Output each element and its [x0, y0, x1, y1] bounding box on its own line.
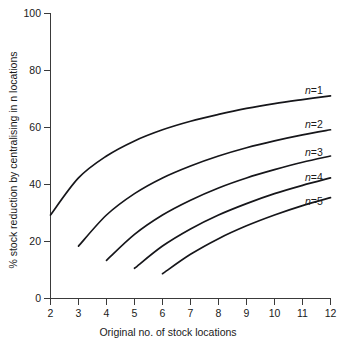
- chart-figure: 100 80 60 40 20 0 2 3 4 5 6: [0, 0, 339, 359]
- series-curves: [51, 96, 331, 274]
- y-tick-label-100: 100: [23, 7, 41, 19]
- x-tick-label-6: 6: [160, 307, 166, 319]
- x-tick-label-11: 11: [297, 307, 308, 319]
- x-tick-label-12: 12: [325, 307, 337, 319]
- curve-labels: n=1 n=2 n=3 n=4 n=5: [305, 84, 323, 207]
- x-tick-label-3: 3: [76, 307, 82, 319]
- curve-label-n-4: n=4: [305, 171, 323, 183]
- y-tick-label-40: 40: [29, 178, 41, 190]
- y-axis-ticks: [44, 14, 51, 299]
- curve-n-5: [163, 198, 331, 274]
- stock-reduction-line-chart: 100 80 60 40 20 0 2 3 4 5 6: [0, 0, 339, 359]
- x-tick-label-9: 9: [244, 307, 250, 319]
- y-tick-label-20: 20: [29, 235, 41, 247]
- y-axis-tick-labels: 100 80 60 40 20 0: [23, 7, 41, 304]
- x-axis-tick-labels: 2 3 4 5 6 7 8 9 10 11 12: [48, 307, 337, 319]
- x-tick-label-8: 8: [216, 307, 222, 319]
- curve-label-n-2: n=2: [305, 118, 323, 130]
- y-axis-title: % stock reduction by centralising in n l…: [7, 51, 19, 268]
- y-tick-label-60: 60: [29, 121, 41, 133]
- curve-label-n-3: n=3: [305, 146, 323, 158]
- curve-label-n-5: n=5: [305, 195, 323, 207]
- x-tick-label-5: 5: [132, 307, 138, 319]
- y-tick-label-80: 80: [29, 64, 41, 76]
- x-tick-label-4: 4: [104, 307, 110, 319]
- x-tick-label-10: 10: [269, 307, 281, 319]
- x-axis-title: Original no. of stock locations: [99, 326, 236, 338]
- x-tick-label-2: 2: [48, 307, 54, 319]
- x-tick-label-7: 7: [188, 307, 194, 319]
- curve-n-4: [135, 178, 331, 268]
- curve-label-n-1: n=1: [305, 84, 323, 96]
- x-axis-ticks: [51, 299, 331, 306]
- curve-n-1: [51, 96, 331, 215]
- y-tick-label-0: 0: [35, 292, 41, 304]
